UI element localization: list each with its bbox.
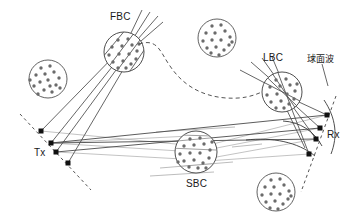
- tx-element-3[interactable]: [54, 150, 59, 155]
- dashed-nlos-path: [139, 43, 262, 99]
- wavefront-label-leader: [322, 64, 328, 86]
- cluster-top-middle: [198, 19, 236, 57]
- diagram-canvas: [0, 0, 357, 222]
- rx-element-4[interactable]: [307, 152, 312, 157]
- label-lbc: LBC: [263, 52, 283, 63]
- label-tx: Tx: [34, 147, 46, 158]
- label-sbc: SBC: [186, 178, 207, 189]
- label-rx: Rx: [327, 129, 340, 140]
- tx-element-2[interactable]: [49, 141, 54, 146]
- label-fbc: FBC: [110, 11, 131, 22]
- rx-element-3[interactable]: [314, 137, 319, 142]
- tx-element-4[interactable]: [66, 161, 71, 166]
- propagation-diagram: FBC LBC SBC Tx Rx 球面波: [0, 0, 357, 222]
- cluster-sbc: [41, 115, 327, 173]
- cluster-left: [28, 60, 67, 98]
- rx-array-axis: [301, 96, 336, 192]
- rx-element-1[interactable]: [325, 113, 330, 118]
- label-spherical-wave: 球面波: [307, 52, 334, 65]
- rx-element-2[interactable]: [318, 126, 323, 131]
- cluster-bottom-right: [257, 173, 295, 211]
- tx-element-1[interactable]: [39, 129, 44, 134]
